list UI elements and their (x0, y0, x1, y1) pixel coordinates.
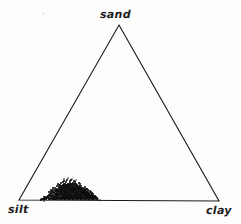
scatter-point-outlier (43, 200, 45, 202)
scatter-point (80, 185, 82, 187)
scatter-point (55, 194, 57, 196)
scatter-point (64, 185, 66, 187)
scatter-point (72, 191, 74, 193)
scatter-point-outlier (40, 198, 42, 200)
scatter-point-outlier (67, 177, 69, 179)
scatter-point (57, 194, 59, 196)
scatter-point (88, 198, 90, 200)
scatter-point (87, 189, 89, 191)
vertex-label-sand: sand (100, 8, 131, 21)
scatter-point (43, 196, 45, 198)
scatter-point (68, 198, 70, 200)
scatter-point (84, 186, 86, 188)
scatter-point (59, 194, 61, 196)
scatter-point (54, 198, 56, 200)
scatter-point (60, 182, 62, 184)
scatter-point (52, 187, 54, 189)
scatter-point (60, 198, 62, 200)
scatter-point (56, 190, 58, 192)
scatter-point (79, 194, 81, 196)
scatter-point (51, 196, 53, 198)
scatter-point (66, 179, 68, 181)
scatter-point-outlier (71, 178, 73, 180)
scatter-point (57, 196, 59, 198)
scatter-point (85, 190, 87, 192)
scatter-point (74, 181, 76, 183)
scatter-point (55, 196, 57, 198)
scatter-point (93, 195, 95, 197)
scatter-point (84, 198, 86, 200)
scatter-point (72, 198, 74, 200)
scatter-point (64, 187, 66, 189)
ternary-plot-canvas (0, 0, 241, 224)
scatter-point (91, 195, 93, 197)
scatter-point (85, 196, 87, 198)
scatter-point (62, 193, 64, 195)
scatter-point (71, 186, 73, 188)
scatter-point (52, 198, 54, 200)
scatter-point (80, 198, 82, 200)
scatter-point (91, 193, 93, 195)
scatter-point-outlier (63, 178, 65, 180)
scatter-point (76, 188, 78, 190)
scatter-point (83, 190, 85, 192)
scatter-point (67, 186, 69, 188)
scatter-point (75, 190, 77, 192)
scatter-point (54, 187, 56, 189)
scatter-point (56, 192, 58, 194)
scatter-point (79, 187, 81, 189)
scatter-point (48, 191, 50, 193)
scatter-point (54, 191, 56, 193)
scatter-point (49, 193, 51, 195)
scatter-point (72, 188, 74, 190)
scatter-point (64, 198, 66, 200)
scatter-point-outlier (75, 179, 77, 181)
scatter-point (56, 185, 58, 187)
scatter-point (60, 191, 62, 193)
scatter-point (48, 197, 50, 199)
scatter-point (63, 183, 65, 185)
scatter-point (85, 188, 87, 190)
scatter-point (83, 188, 85, 190)
scatter-point-outlier (99, 199, 101, 201)
scatter-point (68, 188, 70, 190)
scatter-point (89, 195, 91, 197)
scatter-point (57, 183, 59, 185)
ternary-triangle-outline (19, 25, 219, 201)
scatter-point (90, 191, 92, 193)
scatter-point (67, 183, 69, 185)
scatter-point (77, 195, 79, 197)
scatter-point (61, 196, 63, 198)
scatter-point (47, 195, 49, 197)
scatter-point (50, 189, 52, 191)
scatter-point (60, 187, 62, 189)
scatter-point (62, 181, 64, 183)
scatter-point (78, 185, 80, 187)
scatter-point (44, 198, 46, 200)
scatter-point (72, 182, 74, 184)
scatter-point (53, 196, 55, 198)
scatter-point (87, 191, 89, 193)
scatter-point (76, 198, 78, 200)
scatter-point (56, 198, 58, 200)
scatter-point-outlier (97, 198, 99, 200)
vertex-label-clay: clay (206, 204, 232, 217)
scatter-point (62, 185, 64, 187)
scatter-point (65, 181, 67, 183)
scatter-point (58, 186, 60, 188)
scatter-point (78, 182, 80, 184)
vertex-label-silt: silt (8, 203, 29, 216)
scatter-point (66, 195, 68, 197)
scatter-point (70, 183, 72, 185)
scatter-point (95, 198, 97, 200)
scatter-point (59, 184, 61, 186)
scatter-point (71, 193, 73, 195)
triangle-axes-polygon (19, 25, 219, 201)
ternary-diagram-figure: sand silt clay (0, 0, 241, 224)
scatter-point (75, 186, 77, 188)
scatter-point (83, 192, 85, 194)
scatter-point (65, 191, 67, 193)
scatter-point (87, 193, 89, 195)
scatter-point (63, 196, 65, 198)
scatter-point (65, 189, 67, 191)
